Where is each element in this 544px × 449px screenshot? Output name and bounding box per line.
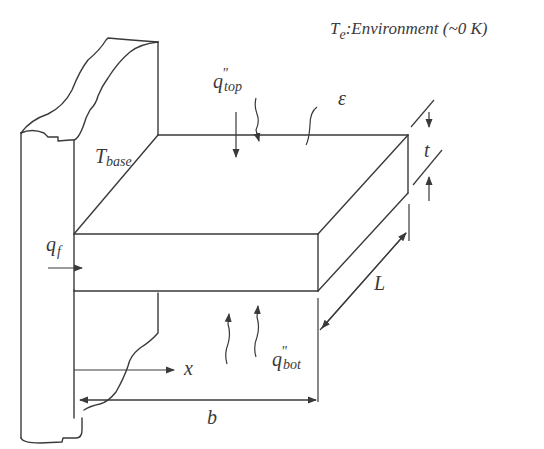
svg-text:q: q: [46, 233, 56, 256]
q-f-label: q f: [46, 233, 63, 259]
svg-text:bot: bot: [283, 357, 302, 372]
length-label: L: [373, 272, 385, 294]
svg-text:Te:Environment (~0 K): Te:Environment (~0 K): [330, 19, 488, 42]
top-heat-flux-arrows: [236, 98, 259, 157]
q-bot-label: q " bot: [272, 344, 302, 372]
x-axis-label: x: [183, 357, 193, 379]
thickness-label: t: [424, 139, 430, 161]
fin-diagram: Te:Environment (~0 K) T base q " top ε t…: [0, 0, 544, 449]
length-dimension: [318, 204, 409, 402]
q-top-label: q " top: [213, 66, 242, 94]
base-wall: [21, 38, 158, 443]
svg-text:base: base: [106, 154, 132, 169]
svg-text:f: f: [57, 244, 63, 259]
emissivity-label: ε: [338, 87, 346, 109]
emissivity-leader: [306, 107, 317, 145]
bottom-heat-flux-arrows: [226, 306, 259, 364]
svg-text:top: top: [224, 79, 242, 94]
t-base-label: T base: [95, 145, 132, 169]
width-label: b: [207, 406, 217, 428]
environment-label: Te:Environment (~0 K): [330, 19, 488, 42]
